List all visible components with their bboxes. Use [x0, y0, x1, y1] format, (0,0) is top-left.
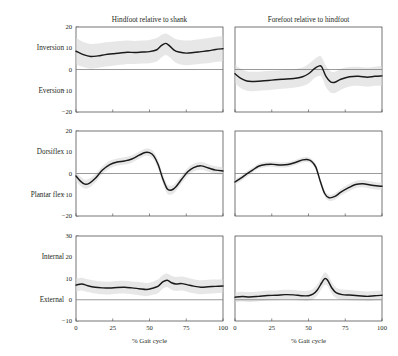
x-axis-label-hindfoot-internal-external: % Gait cycle: [132, 337, 167, 344]
x-tick-label-forefoot-internal-external-50: 50: [305, 324, 312, 331]
panel-forefoot-internal-external: 0255075100% Gait cycle: [233, 236, 387, 344]
row-label-dorsiflex-plantarflex-positive: Dorsiflex: [37, 148, 65, 156]
x-axis-label-forefoot-internal-external: % Gait cycle: [291, 337, 326, 344]
row-label-inversion-eversion-positive: Inversion: [37, 44, 65, 52]
x-tick-label-hindfoot-internal-external-100: 100: [218, 324, 229, 331]
row-label-dorsiflex-plantarflex-negative: Plantar flex: [31, 191, 65, 199]
figure-canvas: Hindfoot relative to shankForefoot relat…: [0, 0, 398, 356]
x-tick-label-hindfoot-internal-external-50: 50: [146, 324, 153, 331]
y-tick-label-internal-external-0: 0: [69, 296, 73, 303]
panel-hindfoot-inversion-eversion: [76, 27, 223, 112]
y-tick-label-dorsiflex-plantarflex-10: 10: [65, 148, 72, 155]
panel-hindfoot-dorsiflex-plantarflex: [76, 131, 223, 216]
y-tick-label-dorsiflex-plantarflex-0: 0: [69, 170, 73, 177]
panel-hindfoot-internal-external: 0255075100% Gait cycle: [74, 236, 228, 344]
x-tick-label-hindfoot-internal-external-75: 75: [183, 324, 190, 331]
panel-frame-forefoot-internal-external: [235, 236, 382, 321]
gait-kinematics-figure: Hindfoot relative to shankForefoot relat…: [0, 0, 398, 356]
y-tick-label-inversion-eversion--10: −10: [62, 87, 73, 94]
x-tick-label-forefoot-internal-external-100: 100: [377, 324, 388, 331]
y-tick-label-internal-external-10: 10: [65, 275, 72, 282]
y-tick-label-inversion-eversion-20: 20: [65, 23, 72, 30]
y-tick-label-inversion-eversion-0: 0: [69, 66, 73, 73]
y-tick-label-internal-external--10: −10: [62, 317, 73, 324]
y-tick-label-dorsiflex-plantarflex-20: 20: [65, 127, 72, 134]
row-label-internal-external-negative: External: [40, 296, 64, 304]
column-title-forefoot-hindfoot: Forefoot relative to hindfoot: [268, 16, 350, 24]
x-tick-label-hindfoot-internal-external-25: 25: [109, 324, 116, 331]
y-tick-label-internal-external-30: 30: [65, 232, 72, 239]
y-tick-label-dorsiflex-plantarflex--10: −10: [62, 191, 73, 198]
x-tick-label-hindfoot-internal-external-0: 0: [74, 324, 78, 331]
y-tick-label-dorsiflex-plantarflex--20: −20: [62, 212, 73, 219]
x-tick-label-forefoot-internal-external-0: 0: [233, 324, 237, 331]
panel-forefoot-inversion-eversion: [235, 27, 382, 112]
y-tick-label-inversion-eversion--20: −20: [62, 108, 73, 115]
y-tick-label-internal-external-20: 20: [65, 253, 72, 260]
x-tick-label-forefoot-internal-external-25: 25: [268, 324, 275, 331]
column-title-hindfoot-shank: Hindfoot relative to shank: [112, 16, 188, 24]
panel-frame-hindfoot-internal-external: [76, 236, 223, 321]
row-label-internal-external-positive: Internal: [42, 253, 64, 261]
panel-forefoot-dorsiflex-plantarflex: [235, 131, 382, 216]
row-label-inversion-eversion-negative: Eversion: [38, 87, 64, 95]
y-tick-label-inversion-eversion-10: 10: [65, 44, 72, 51]
x-tick-label-forefoot-internal-external-75: 75: [342, 324, 349, 331]
